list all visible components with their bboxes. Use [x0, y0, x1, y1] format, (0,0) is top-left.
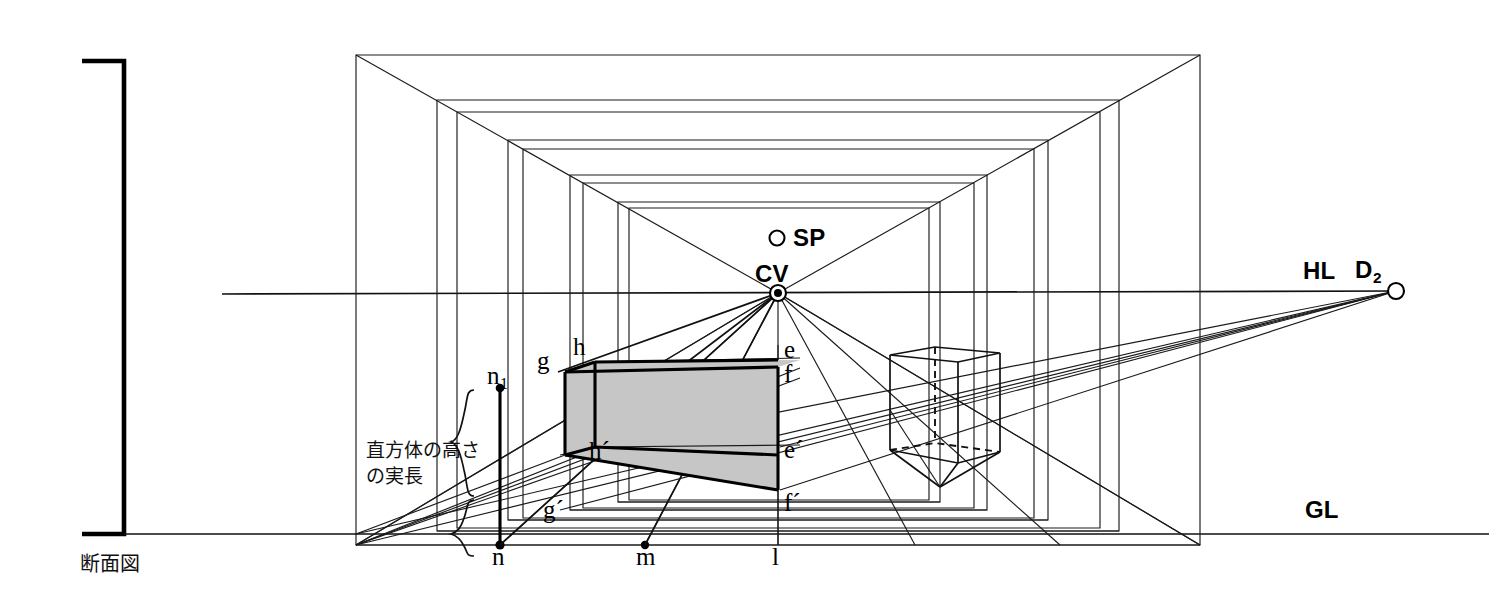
height-annotation-line1: 直方体の高さ [366, 437, 480, 463]
label-vertex-e: e [784, 337, 795, 362]
diagonal-construction-lines-to-d2 [356, 291, 1396, 545]
label-cv: CV [755, 262, 789, 286]
label-point-m: m [636, 544, 655, 569]
horizon-line [222, 291, 1400, 294]
figure-canvas: SP CV HL D2 GL g h e f g´ h´ e´ f´ n1 n … [0, 0, 1489, 600]
small-cube-top-face [890, 347, 1000, 362]
cuboid-edge-h-f [595, 360, 778, 362]
small-wireframe-cube [890, 347, 1000, 487]
marker-d2 [1388, 283, 1404, 299]
section-view-bracket [82, 61, 124, 534]
label-sp: SP [793, 226, 825, 250]
label-vertex-g: g [537, 348, 550, 373]
label-vertex-f-prime: f´ [784, 490, 801, 515]
label-vertex-h: h [573, 334, 586, 359]
small-cube-diagonal [890, 410, 940, 487]
small-cube-projector-right [940, 452, 1000, 487]
height-annotation: 直方体の高さ の実長 [366, 437, 480, 489]
label-point-l: l [772, 544, 779, 569]
label-vertex-f: f [784, 361, 792, 386]
height-annotation-line2: の実長 [366, 463, 480, 489]
figure-caption: 断面図 [80, 551, 140, 579]
label-point-n1: n1 [487, 363, 508, 388]
shaded-cuboid [565, 358, 800, 490]
label-vertex-g-prime: g´ [543, 497, 564, 522]
label-d2: D2 [1355, 258, 1381, 282]
marker-cv [770, 285, 786, 301]
small-cube-bottom-back-hidden [890, 443, 1000, 452]
label-vertex-e-prime: e´ [784, 437, 803, 462]
vertical-measuring-line-n [495, 384, 504, 550]
label-vertex-h-prime: h´ [589, 438, 610, 463]
label-hl: HL [1303, 259, 1335, 283]
label-point-n: n [492, 544, 505, 569]
marker-sp [770, 231, 785, 246]
label-gl: GL [1305, 498, 1339, 522]
small-cube-projector-front [940, 463, 958, 487]
perspective-drawing [0, 0, 1489, 600]
